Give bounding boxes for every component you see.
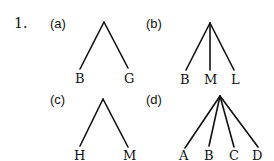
leaf-label: A	[178, 148, 189, 161]
tree-b: (b) B M L	[146, 16, 240, 87]
tree-d: (d) A B C D	[146, 92, 262, 161]
leaf-label: B	[75, 71, 85, 86]
tree-a-label: (a)	[50, 16, 66, 31]
leaf-label: M	[204, 72, 217, 87]
branch	[220, 96, 258, 147]
leaf-label: C	[229, 148, 239, 161]
branch	[103, 99, 128, 147]
leaf-label: H	[74, 148, 85, 161]
question-number: 1.	[14, 15, 27, 31]
tree-a: (a) B G	[50, 16, 134, 86]
tree-c: (c) H M	[50, 92, 136, 161]
branch	[80, 99, 103, 146]
leaf-label: G	[124, 71, 134, 86]
leaf-label: D	[252, 148, 262, 161]
branch	[186, 23, 210, 70]
leaf-label: B	[180, 72, 190, 87]
tree-d-label: (d)	[146, 92, 162, 107]
leaf-label: M	[123, 148, 136, 161]
tree-c-label: (c)	[50, 92, 65, 107]
leaf-label: B	[204, 148, 214, 161]
branch	[220, 96, 234, 147]
tree-diagrams: 1. (a) B G (b) B M L (c) H M (d) A B C D	[0, 0, 274, 161]
branch	[80, 22, 104, 69]
branch	[210, 23, 234, 70]
branch	[104, 22, 128, 68]
leaf-label: L	[231, 72, 240, 87]
tree-b-label: (b)	[146, 16, 162, 31]
